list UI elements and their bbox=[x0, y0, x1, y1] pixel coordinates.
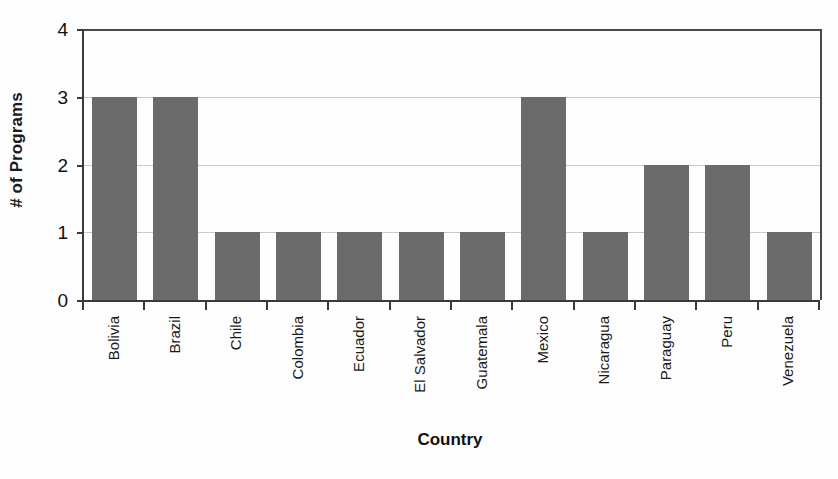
bar bbox=[276, 232, 321, 300]
bar bbox=[215, 232, 260, 300]
x-axis-ticks bbox=[82, 301, 820, 310]
x-label-slot: Ecuador bbox=[327, 312, 388, 422]
x-axis-tick bbox=[634, 301, 636, 310]
bar bbox=[583, 232, 628, 300]
y-axis-title: # of Programs bbox=[0, 0, 34, 300]
x-tick-label: Mexico bbox=[533, 316, 550, 364]
bar bbox=[399, 232, 444, 300]
y-axis-title-label: # of Programs bbox=[7, 92, 27, 208]
plot-right-border bbox=[820, 29, 822, 300]
x-axis-tick bbox=[818, 301, 820, 310]
bar-slot bbox=[697, 29, 758, 300]
bar-slot bbox=[452, 29, 513, 300]
bar-slot bbox=[145, 29, 206, 300]
y-tick-label: 0 bbox=[57, 291, 68, 310]
y-tick-label: 4 bbox=[57, 20, 68, 39]
x-tick-label: Chile bbox=[227, 316, 244, 350]
x-axis-tick bbox=[389, 301, 391, 310]
x-label-slot: Guatemala bbox=[450, 312, 511, 422]
bar-slot bbox=[391, 29, 452, 300]
x-axis-tick bbox=[511, 301, 513, 310]
plot-area bbox=[82, 29, 820, 302]
bar-slot bbox=[84, 29, 145, 300]
x-axis-tick bbox=[327, 301, 329, 310]
bar-slot bbox=[513, 29, 574, 300]
bar-slot bbox=[575, 29, 636, 300]
bar-slot bbox=[329, 29, 390, 300]
y-axis-tick bbox=[77, 97, 84, 99]
x-tick-label: Brazil bbox=[165, 316, 182, 354]
y-axis-tick-labels: 01234 bbox=[38, 29, 74, 300]
bar bbox=[705, 165, 750, 301]
x-axis-tick bbox=[82, 301, 84, 310]
x-axis-tick bbox=[143, 301, 145, 310]
x-tick-label: Paraguay bbox=[656, 316, 673, 380]
bar bbox=[337, 232, 382, 300]
bar bbox=[153, 97, 198, 300]
x-axis-tick bbox=[266, 301, 268, 310]
x-tick-label: Venezuela bbox=[779, 316, 796, 386]
x-tick-label: Ecuador bbox=[349, 316, 366, 372]
x-axis-category-labels: BoliviaBrazilChileColombiaEcuadorEl Salv… bbox=[82, 312, 818, 422]
bar-slot bbox=[207, 29, 268, 300]
bar bbox=[92, 97, 137, 300]
x-axis-tick bbox=[450, 301, 452, 310]
x-label-slot: Brazil bbox=[143, 312, 204, 422]
x-axis-title: Country bbox=[82, 430, 818, 450]
x-label-slot: Chile bbox=[205, 312, 266, 422]
bar bbox=[767, 232, 812, 300]
bar-series bbox=[84, 29, 820, 300]
x-tick-label: Bolivia bbox=[104, 316, 121, 360]
x-label-slot: Peru bbox=[695, 312, 756, 422]
y-axis-tick bbox=[77, 232, 84, 234]
x-label-slot: Bolivia bbox=[82, 312, 143, 422]
bar bbox=[644, 165, 689, 301]
x-axis-tick bbox=[695, 301, 697, 310]
bar-slot bbox=[268, 29, 329, 300]
y-axis-tick bbox=[77, 165, 84, 167]
x-tick-label: El Salvador bbox=[411, 316, 428, 393]
x-tick-label: Guatemala bbox=[472, 316, 489, 389]
x-label-slot: Paraguay bbox=[634, 312, 695, 422]
bar-chart-figure: # of Programs 01234 BoliviaBrazilChileCo… bbox=[0, 0, 838, 479]
x-label-slot: El Salvador bbox=[389, 312, 450, 422]
x-axis-tick bbox=[573, 301, 575, 310]
bar-slot bbox=[636, 29, 697, 300]
x-label-slot: Nicaragua bbox=[573, 312, 634, 422]
x-label-slot: Mexico bbox=[511, 312, 572, 422]
x-axis-tick bbox=[757, 301, 759, 310]
bar-slot bbox=[759, 29, 820, 300]
x-tick-label: Colombia bbox=[288, 316, 305, 379]
x-label-slot: Venezuela bbox=[757, 312, 818, 422]
y-tick-label: 3 bbox=[57, 87, 68, 106]
x-label-slot: Colombia bbox=[266, 312, 327, 422]
y-tick-label: 2 bbox=[57, 155, 68, 174]
bar bbox=[460, 232, 505, 300]
x-axis-tick bbox=[205, 301, 207, 310]
x-tick-label: Peru bbox=[717, 316, 734, 348]
y-axis-tick bbox=[77, 29, 84, 31]
bar bbox=[521, 97, 566, 300]
y-tick-label: 1 bbox=[57, 223, 68, 242]
x-tick-label: Nicaragua bbox=[595, 316, 612, 384]
